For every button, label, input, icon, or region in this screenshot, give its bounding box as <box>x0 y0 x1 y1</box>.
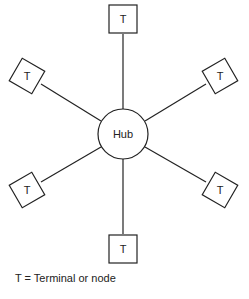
node-top: T <box>109 5 137 33</box>
legend: T = Terminal or node <box>15 272 116 284</box>
node-label: T <box>120 243 127 255</box>
node-label: T <box>120 13 127 25</box>
node-label: T <box>217 70 224 82</box>
hub-label: Hub <box>113 128 133 140</box>
spoke-lower-right <box>145 147 206 182</box>
spoke-upper-right <box>145 84 206 121</box>
node-upper-left: T <box>9 58 45 94</box>
node-bottom: T <box>109 235 137 263</box>
node-label: T <box>24 184 31 196</box>
spoke-upper-left <box>41 84 101 121</box>
node-lower-left: T <box>9 172 45 208</box>
spoke-lower-left <box>41 147 101 182</box>
node-lower-right: T <box>202 172 238 208</box>
node-label: T <box>217 184 224 196</box>
node-label: T <box>24 70 31 82</box>
hub: Hub <box>98 109 148 159</box>
node-upper-right: T <box>202 58 238 94</box>
star-network-diagram: Hub T T T T T T <box>0 0 249 299</box>
